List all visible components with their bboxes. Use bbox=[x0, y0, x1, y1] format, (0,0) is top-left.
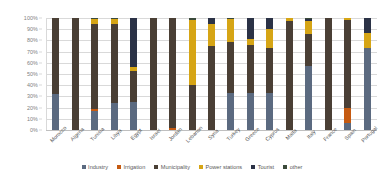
chart-legend: IndustryIrrigationMunicipalityPower stat… bbox=[0, 164, 384, 170]
legend-item[interactable]: Power stations bbox=[199, 164, 242, 170]
x-axis-labels: MoroccoAlgeriaTunisiaLibyaEgyptIsraelJor… bbox=[46, 131, 377, 165]
bar-segment[interactable] bbox=[364, 18, 371, 33]
legend-swatch-icon bbox=[283, 165, 287, 169]
stacked-bar[interactable] bbox=[325, 18, 332, 130]
bar-segment[interactable] bbox=[169, 18, 176, 128]
stacked-bar[interactable] bbox=[52, 18, 59, 130]
x-axis-slot: Algeria bbox=[65, 131, 84, 165]
x-axis-slot: Malta bbox=[280, 131, 299, 165]
bar-segment[interactable] bbox=[305, 21, 312, 33]
stacked-bar[interactable] bbox=[305, 18, 312, 130]
x-axis-slot: Tunisia bbox=[85, 131, 104, 165]
bar-slot bbox=[46, 18, 65, 130]
legend-item[interactable]: Municipality bbox=[154, 164, 190, 170]
y-axis-tick bbox=[39, 118, 42, 119]
bar-segment[interactable] bbox=[266, 29, 273, 48]
bar-slot bbox=[124, 18, 143, 130]
bar-segment[interactable] bbox=[150, 18, 157, 130]
bar-segment[interactable] bbox=[305, 34, 312, 66]
stacked-bar[interactable] bbox=[344, 18, 351, 130]
x-axis-slot: Libya bbox=[104, 131, 123, 165]
bar-segment[interactable] bbox=[208, 46, 215, 130]
y-axis-tick bbox=[39, 85, 42, 86]
bar-segment[interactable] bbox=[344, 20, 351, 107]
bar-segment[interactable] bbox=[189, 20, 196, 85]
stacked-bar[interactable] bbox=[150, 18, 157, 130]
bar-segment[interactable] bbox=[130, 71, 137, 102]
bar-segment[interactable] bbox=[247, 18, 254, 39]
stacked-bar[interactable] bbox=[266, 18, 273, 130]
bar-segment[interactable] bbox=[247, 93, 254, 130]
bar-segment[interactable] bbox=[52, 94, 59, 130]
y-axis-tick-label: 100% bbox=[24, 15, 38, 21]
x-axis-slot: Jordan bbox=[163, 131, 182, 165]
bar-segment[interactable] bbox=[247, 45, 254, 93]
bar-slot bbox=[338, 18, 357, 130]
bar-segment[interactable] bbox=[111, 24, 118, 104]
bar-segment[interactable] bbox=[305, 66, 312, 130]
bar-segment[interactable] bbox=[325, 18, 332, 130]
stacked-bar[interactable] bbox=[72, 18, 79, 130]
bar-segment[interactable] bbox=[208, 24, 215, 46]
y-axis-tick-label: 90% bbox=[27, 26, 38, 32]
x-axis-slot: Israel bbox=[143, 131, 162, 165]
stacked-bar[interactable] bbox=[91, 18, 98, 130]
bar-segment[interactable] bbox=[344, 108, 351, 124]
legend-item[interactable]: Irrigation bbox=[117, 164, 145, 170]
bar-segment[interactable] bbox=[227, 42, 234, 94]
bar-segment[interactable] bbox=[91, 111, 98, 130]
legend-label: Municipality bbox=[161, 164, 190, 170]
bar-segment[interactable] bbox=[266, 48, 273, 93]
stacked-bar[interactable] bbox=[208, 18, 215, 130]
bar-segment[interactable] bbox=[227, 93, 234, 130]
bar-segment[interactable] bbox=[130, 18, 137, 67]
legend-label: Irrigation bbox=[123, 164, 145, 170]
bar-segment[interactable] bbox=[227, 19, 234, 41]
bar-segment[interactable] bbox=[364, 48, 371, 130]
y-axis-tick bbox=[39, 62, 42, 63]
x-axis-slot: Portugal bbox=[358, 131, 377, 165]
bar-slot bbox=[241, 18, 260, 130]
legend-label: Power stations bbox=[205, 164, 242, 170]
bar-slot bbox=[319, 18, 338, 130]
legend-label: Industry bbox=[88, 164, 108, 170]
stacked-bar[interactable] bbox=[130, 18, 137, 130]
y-axis-tick bbox=[39, 107, 42, 108]
legend-item[interactable]: Industry bbox=[82, 164, 108, 170]
bar-slot bbox=[299, 18, 318, 130]
x-axis-slot: Morocco bbox=[46, 131, 65, 165]
y-axis-tick-label: 80% bbox=[27, 37, 38, 43]
x-axis-slot: Italy bbox=[299, 131, 318, 165]
stacked-bar[interactable] bbox=[169, 18, 176, 130]
stacked-bar[interactable] bbox=[247, 18, 254, 130]
legend-item[interactable]: Tourist bbox=[251, 164, 274, 170]
legend-swatch-icon bbox=[199, 165, 203, 169]
bar-slot bbox=[202, 18, 221, 130]
legend-label: other bbox=[290, 164, 303, 170]
stacked-bar[interactable] bbox=[364, 18, 371, 130]
bar-segment[interactable] bbox=[266, 18, 273, 29]
legend-swatch-icon bbox=[117, 165, 121, 169]
bar-slot bbox=[358, 18, 377, 130]
bar-segment[interactable] bbox=[52, 18, 59, 94]
y-axis-tick bbox=[39, 74, 42, 75]
stacked-bar[interactable] bbox=[111, 18, 118, 130]
bar-segment[interactable] bbox=[111, 103, 118, 130]
bar-segment[interactable] bbox=[91, 24, 98, 109]
bar-series-container bbox=[46, 18, 377, 130]
legend-item[interactable]: other bbox=[283, 164, 302, 170]
x-axis-slot: Turkey bbox=[221, 131, 240, 165]
y-axis-tick-label: 50% bbox=[27, 71, 38, 77]
bar-segment[interactable] bbox=[130, 102, 137, 130]
bar-segment[interactable] bbox=[72, 18, 79, 130]
stacked-bar[interactable] bbox=[189, 18, 196, 130]
bar-segment[interactable] bbox=[286, 21, 293, 130]
bar-segment[interactable] bbox=[189, 85, 196, 130]
bar-slot bbox=[104, 18, 123, 130]
bar-segment[interactable] bbox=[364, 33, 371, 49]
legend-swatch-icon bbox=[251, 165, 255, 169]
stacked-bar[interactable] bbox=[227, 18, 234, 130]
bar-segment[interactable] bbox=[266, 93, 273, 130]
stacked-bar[interactable] bbox=[286, 18, 293, 130]
y-axis-tick bbox=[39, 40, 42, 41]
